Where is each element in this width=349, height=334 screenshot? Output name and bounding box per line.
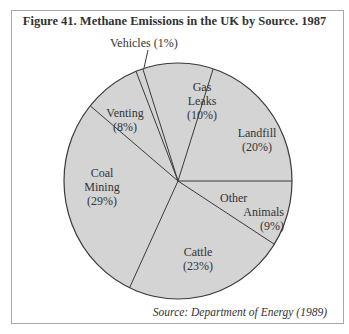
chart-source: Source: Department of Energy (1989) [153, 306, 327, 318]
label-venting: Venting (8%) [95, 106, 155, 134]
label-vehicles: Vehicles (1%) [110, 36, 178, 50]
label-landfill: Landfill (20%) [222, 126, 292, 154]
vehicles-leader-line [144, 50, 148, 68]
label-cattle: Cattle (23%) [163, 245, 233, 273]
label-other-animals: Other Animals (9%) [212, 191, 284, 233]
label-gas-leaks: Gas Leaks (10%) [172, 80, 232, 122]
label-coal-mining: Coal Mining (29%) [72, 166, 132, 208]
pie-chart [0, 0, 349, 334]
